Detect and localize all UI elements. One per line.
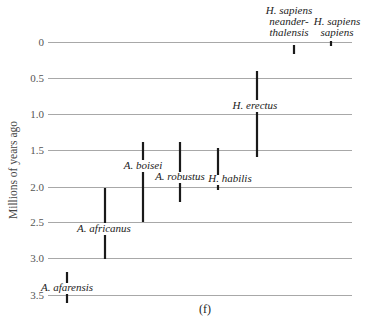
y-axis-label: Millions of years ago (7, 121, 20, 219)
y-tick: 3.0 (30, 252, 44, 264)
panel-label: (f) (199, 302, 211, 316)
y-tick: 1.0 (30, 108, 44, 120)
label-afarensis: A. afarensis (40, 281, 93, 293)
label-robustus: A. robustus (154, 170, 205, 182)
y-tick: 0 (39, 36, 45, 48)
y-tick: 1.5 (30, 144, 44, 156)
hominin-timeline-chart: 0 0.5 1.0 1.5 2.0 2.5 3.0 3.5 Millions o… (0, 0, 374, 331)
label-erectus: H. erectus (232, 99, 278, 111)
gridlines (48, 43, 352, 296)
label-sapiens-line2: sapiens (321, 26, 354, 38)
label-habilis: H. habilis (207, 172, 251, 184)
y-tick: 2.5 (30, 216, 44, 228)
y-tick: 2.0 (30, 181, 44, 193)
species-labels: A. afarensis A. africanus A. boisei A. r… (40, 4, 360, 293)
label-neanderthalensis-line3: thalensis (269, 26, 308, 38)
y-tick: 0.5 (30, 72, 44, 84)
y-axis-ticks: 0 0.5 1.0 1.5 2.0 2.5 3.0 3.5 (30, 36, 44, 301)
label-africanus: A. africanus (76, 222, 131, 234)
